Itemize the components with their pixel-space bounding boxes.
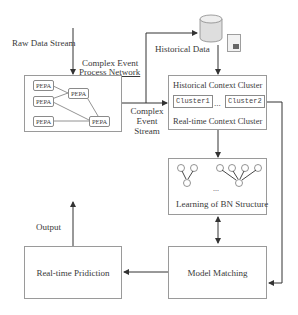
bn-ellipsis: ... (213, 184, 219, 194)
cluster1-box: Cluster1 (173, 95, 213, 108)
realtime-context-cluster-label: Real-time Context Cluster (173, 116, 262, 126)
realtime-prediction-box: Real-time Pridiction (24, 246, 122, 299)
historical-context-cluster-label: Historical Context Cluster (173, 80, 262, 90)
raw-data-stream-label: Raw Data Stream (12, 38, 75, 48)
model-matching-label: Model Matching (187, 268, 247, 278)
output-label: Output (36, 222, 61, 232)
complex-event-stream-line1: Complex (128, 106, 166, 116)
context-cluster-box: Historical Context Cluster Cluster1 ... … (168, 75, 267, 130)
model-matching-box: Model Matching (168, 246, 267, 299)
database-icon (199, 14, 223, 44)
complex-event-process-network-box: PEPA PEPA PEPA PEPA PEPA (24, 75, 122, 132)
pepa-node: PEPA (33, 116, 54, 127)
pepa-node: PEPA (89, 116, 110, 127)
complex-event-stream-label: Complex Event Stream (128, 106, 166, 136)
historical-data-label: Historical Data (155, 44, 210, 54)
pepa-node: PEPA (68, 88, 89, 99)
complex-event-stream-line2: Event (128, 116, 166, 126)
learning-bn-structure-label: Learning of BN Structure (176, 199, 268, 209)
document-icon (227, 34, 241, 52)
bn-structure-box: ... Learning of BN Structure (168, 158, 267, 215)
cluster2-box: Cluster2 (225, 95, 265, 108)
cluster-ellipsis: ... (214, 98, 221, 108)
complex-event-stream-line3: Stream (128, 126, 166, 136)
pepa-node: PEPA (33, 80, 54, 91)
realtime-prediction-label: Real-time Pridiction (36, 268, 109, 278)
pepa-node: PEPA (33, 96, 54, 107)
